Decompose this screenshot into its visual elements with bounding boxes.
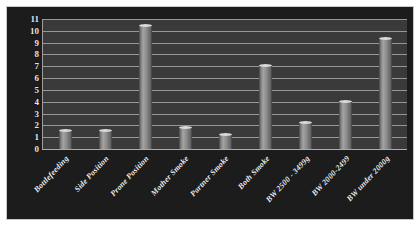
chart-panel: 11109876543210 BottlefeedingSide Positio… bbox=[6, 6, 414, 220]
bar bbox=[339, 102, 352, 149]
plot-area: 11109876543210 bbox=[42, 19, 407, 150]
y-axis-tick-label: 9 bbox=[35, 38, 40, 47]
bar bbox=[259, 66, 272, 149]
y-axis-tick-label: 0 bbox=[35, 145, 40, 154]
bar-slot bbox=[85, 19, 125, 149]
y-axis-tick-label: 2 bbox=[35, 121, 40, 130]
bar bbox=[99, 131, 112, 149]
bar-series bbox=[43, 19, 407, 149]
y-axis-tick-label: 11 bbox=[30, 15, 39, 24]
bar bbox=[59, 131, 72, 149]
bar bbox=[139, 26, 152, 149]
x-axis-labels: BottlefeedingSide PositionProne Position… bbox=[42, 152, 407, 220]
bar-slot bbox=[285, 19, 325, 149]
bar bbox=[219, 135, 232, 149]
bar bbox=[179, 128, 192, 149]
y-axis-tick-label: 6 bbox=[35, 74, 40, 83]
y-axis-tick-label: 5 bbox=[35, 85, 40, 94]
bar-slot bbox=[325, 19, 365, 149]
bar-slot bbox=[205, 19, 245, 149]
y-axis-tick-label: 1 bbox=[35, 133, 40, 142]
bar bbox=[299, 123, 312, 149]
bar-slot bbox=[245, 19, 285, 149]
bar-slot bbox=[125, 19, 165, 149]
x-axis-tick-label: Bottlefeeding bbox=[32, 154, 70, 194]
y-axis-tick-label: 3 bbox=[35, 109, 40, 118]
y-axis-tick-label: 4 bbox=[35, 97, 40, 106]
x-label-slot: BW under 2000g bbox=[365, 152, 405, 220]
bar-slot bbox=[365, 19, 405, 149]
y-axis-tick-label: 10 bbox=[30, 26, 39, 35]
chart-figure: 11109876543210 BottlefeedingSide Positio… bbox=[0, 0, 420, 228]
bar-slot bbox=[165, 19, 205, 149]
bar bbox=[379, 39, 392, 149]
y-axis-tick-label: 7 bbox=[35, 62, 40, 71]
y-axis-tick-label: 8 bbox=[35, 50, 40, 59]
bar-slot bbox=[45, 19, 85, 149]
gridline bbox=[43, 149, 407, 150]
